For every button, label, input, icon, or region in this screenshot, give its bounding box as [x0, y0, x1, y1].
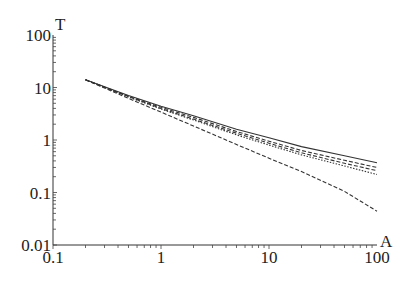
y-tick-label: 0.1 — [30, 184, 51, 203]
log-log-chart: 0.11101000.010.1110100 T A — [0, 0, 409, 281]
series-solid — [86, 80, 378, 163]
x-axis-label: A — [380, 232, 393, 251]
series-dashed-2 — [86, 80, 378, 171]
y-axis-label: T — [55, 15, 66, 34]
series-dashed-1 — [86, 80, 378, 168]
x-tick-label: 1 — [157, 248, 166, 267]
y-tick-label: 10 — [34, 79, 51, 98]
x-tick-label: 10 — [261, 248, 278, 267]
y-tick-label: 100 — [26, 26, 52, 45]
series-lines — [86, 80, 378, 211]
y-tick-label: 1 — [43, 131, 52, 150]
axes: 0.11101000.010.1110100 — [21, 26, 390, 267]
y-tick-label: 0.01 — [21, 236, 51, 255]
series-dashed-steep — [86, 80, 378, 211]
